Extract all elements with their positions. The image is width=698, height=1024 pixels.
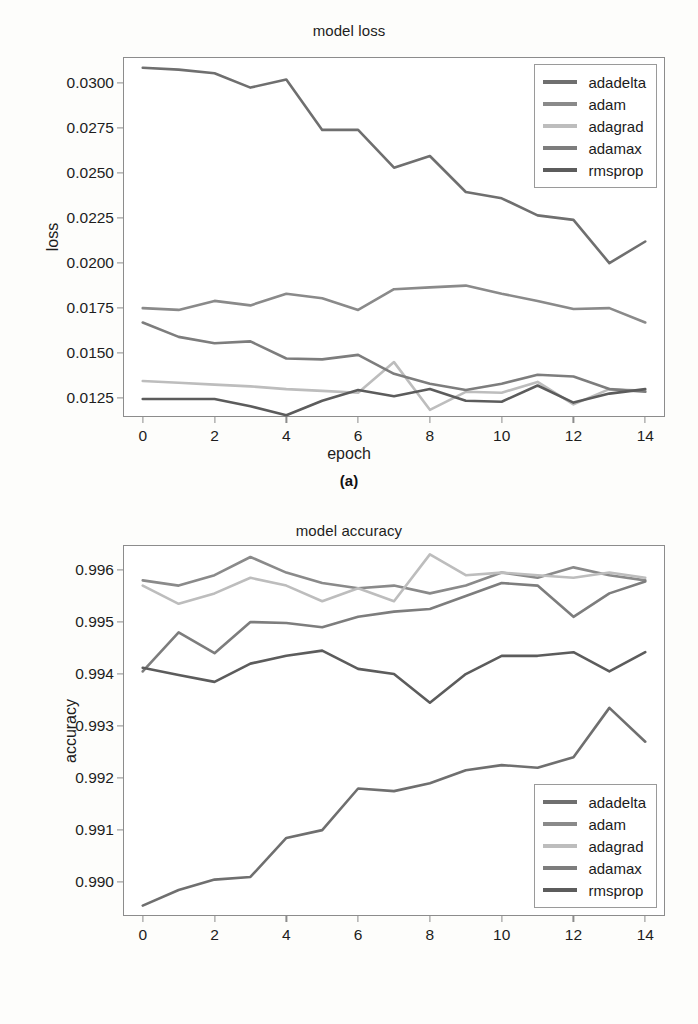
legend-item-rmsprop[interactable]: rmsprop (543, 159, 646, 181)
x-tick-mark (214, 417, 215, 423)
y-tick-label: 0.0225 (67, 209, 114, 227)
series-line-adagrad (143, 362, 646, 410)
y-tick-mark (117, 673, 123, 674)
y-tick-label: 0.993 (75, 717, 114, 735)
legend-item-label: adadelta (588, 794, 646, 811)
y-tick-mark (117, 218, 123, 219)
legend-item-adadelta[interactable]: adadelta (543, 791, 646, 813)
legend-line-swatch-icon (543, 800, 577, 803)
legend-line-swatch-icon (543, 844, 577, 847)
y-axis-label-a: loss (44, 223, 62, 251)
x-tick-mark (358, 916, 359, 922)
y-tick-label: 0.991 (75, 821, 114, 839)
y-tick-mark (117, 398, 123, 399)
legend-item-adam[interactable]: adam (543, 813, 646, 835)
figure-two-panel-training-curves: model loss loss 0.01250.01500.01750.0200… (0, 0, 698, 1024)
legend-item-adagrad[interactable]: adagrad (543, 835, 646, 857)
y-tick-mark (117, 725, 123, 726)
x-tick-label: 2 (210, 427, 219, 445)
x-tick-label: 0 (138, 427, 147, 445)
y-tick-label: 0.0275 (67, 119, 114, 137)
legend-line-swatch-icon (543, 866, 577, 869)
series-line-adam (143, 557, 646, 593)
x-tick-mark (645, 417, 646, 423)
y-tick-mark (117, 263, 123, 264)
y-tick-mark (117, 621, 123, 622)
legend-item-label: adadelta (588, 74, 646, 91)
x-tick-mark (142, 417, 143, 423)
legend-a: adadeltaadamadagradadamaxrmsprop (534, 64, 657, 188)
y-tick-label: 0.0175 (67, 299, 114, 317)
y-tick-mark (117, 173, 123, 174)
x-tick-label: 10 (493, 427, 510, 445)
legend-item-label: adagrad (588, 118, 643, 135)
series-line-adamax (143, 581, 646, 671)
series-line-rmsprop (143, 386, 646, 416)
x-tick-label: 2 (210, 926, 219, 944)
legend-line-swatch-icon (543, 822, 577, 825)
x-tick-label: 8 (426, 427, 435, 445)
subcaption-a-text: (a) (340, 472, 358, 489)
series-line-adam (143, 286, 646, 323)
y-tick-label: 0.990 (75, 873, 114, 891)
legend-line-swatch-icon (543, 80, 577, 83)
legend-item-label: adamax (588, 860, 641, 877)
plot-area-b: accuracy 0.9900.9910.9920.9930.9940.9950… (123, 545, 665, 916)
y-tick-mark (117, 569, 123, 570)
legend-item-rmsprop[interactable]: rmsprop (543, 879, 646, 901)
panel-b-model-accuracy: model accuracy accuracy 0.9900.9910.9920… (0, 512, 698, 1024)
legend-item-adamax[interactable]: adamax (543, 137, 646, 159)
x-tick-label: 12 (565, 427, 582, 445)
x-tick-mark (429, 916, 430, 922)
y-tick-mark (117, 83, 123, 84)
x-tick-label: 14 (637, 926, 654, 944)
y-tick-label: 0.992 (75, 769, 114, 787)
x-tick-mark (286, 916, 287, 922)
legend-item-adadelta[interactable]: adadelta (543, 71, 646, 93)
x-tick-label: 4 (282, 926, 291, 944)
x-tick-mark (358, 417, 359, 423)
y-tick-mark (117, 778, 123, 779)
y-tick-mark (117, 308, 123, 309)
legend-item-adagrad[interactable]: adagrad (543, 115, 646, 137)
y-tick-label: 0.0200 (67, 254, 114, 272)
series-line-rmsprop (143, 651, 646, 703)
x-tick-label: 14 (637, 427, 654, 445)
legend-line-swatch-icon (543, 146, 577, 149)
series-line-adagrad (143, 554, 646, 603)
legend-line-swatch-icon (543, 102, 577, 105)
subcaption-a: (a) (0, 472, 698, 489)
y-tick-label: 0.994 (75, 665, 114, 683)
x-axis-label-a: epoch (0, 445, 698, 463)
legend-item-adamax[interactable]: adamax (543, 857, 646, 879)
y-tick-label: 0.0250 (67, 164, 114, 182)
legend-line-swatch-icon (543, 888, 577, 891)
legend-item-label: adam (588, 96, 626, 113)
legend-b: adadeltaadamadagradadamaxrmsprop (534, 784, 657, 908)
x-tick-mark (142, 916, 143, 922)
x-tick-label: 0 (138, 926, 147, 944)
x-tick-mark (501, 417, 502, 423)
chart-title-b: model accuracy (0, 522, 698, 539)
y-tick-mark (117, 882, 123, 883)
y-tick-label: 0.0125 (67, 389, 114, 407)
legend-item-adam[interactable]: adam (543, 93, 646, 115)
x-tick-label: 6 (354, 427, 363, 445)
y-tick-label: 0.996 (75, 561, 114, 579)
y-tick-label: 0.995 (75, 613, 114, 631)
legend-line-swatch-icon (543, 168, 577, 171)
x-tick-mark (645, 916, 646, 922)
y-tick-label: 0.0300 (67, 74, 114, 92)
legend-item-label: adagrad (588, 838, 643, 855)
series-line-adamax (143, 323, 646, 392)
x-tick-mark (429, 417, 430, 423)
x-tick-label: 12 (565, 926, 582, 944)
x-tick-mark (214, 916, 215, 922)
x-tick-label: 8 (426, 926, 435, 944)
x-tick-label: 6 (354, 926, 363, 944)
y-tick-mark (117, 353, 123, 354)
legend-line-swatch-icon (543, 124, 577, 127)
x-tick-mark (573, 417, 574, 423)
legend-item-label: adam (588, 816, 626, 833)
y-tick-mark (117, 128, 123, 129)
